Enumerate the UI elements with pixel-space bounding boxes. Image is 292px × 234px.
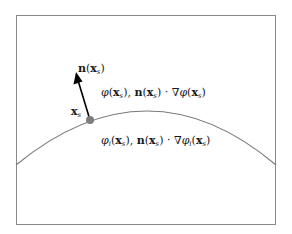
inner-field-label: φi(xs), n(xs) · ∇φi(xs): [101, 135, 210, 148]
point-label: xs: [71, 106, 81, 119]
domain-frame: [17, 16, 276, 225]
diagram-canvas: [0, 0, 292, 234]
normal-label: n(xs): [78, 63, 105, 76]
surface-point: [86, 116, 94, 124]
outer-field-label: φ(xs), n(xs) · ∇φ(xs): [101, 87, 206, 100]
